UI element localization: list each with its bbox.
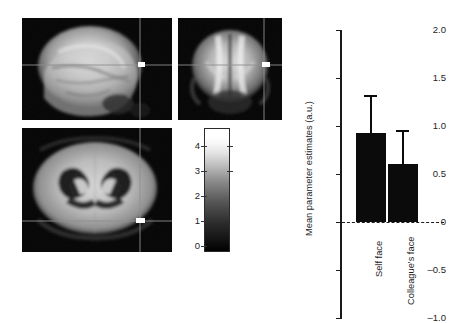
bar-chart: Mean parameter estimates (a.u.) 2.0 1.5 …: [296, 10, 446, 315]
error-bar-cap-self-face: [364, 95, 377, 97]
error-bar-cap-colleagues-face: [396, 130, 409, 132]
colorbar-tick-2: [201, 196, 207, 197]
sagittal-brain-render: [22, 18, 172, 120]
colorbar-tick-4-right: [227, 146, 233, 147]
category-label-self-face: Self face: [375, 241, 384, 277]
y-tick-1.0: [336, 126, 342, 127]
coronal-brain-image: [178, 18, 282, 120]
y-tick-neg0.5: [336, 270, 342, 271]
y-tick-neg1.0: [336, 318, 342, 319]
colorbar-label-3: 3: [195, 166, 200, 176]
colorbar-tick-4: [201, 146, 207, 147]
error-bar-stem-colleagues-face: [402, 130, 404, 164]
y-axis-title: Mean parameter estimates (a.u.): [304, 101, 314, 236]
axial-brain-image: [22, 128, 172, 252]
coronal-brain-render: [178, 18, 282, 120]
axial-brain-render: [22, 128, 172, 252]
y-label-1.5: 1.5: [412, 73, 446, 83]
colorbar-tick-0: [201, 246, 207, 247]
colorbar-label-0: 0: [195, 241, 200, 251]
colorbar-tick-3-right: [227, 171, 233, 172]
y-label-neg1.0: –1.0: [412, 313, 446, 323]
zero-baseline: [342, 222, 444, 223]
bar-self-face: [356, 133, 386, 222]
y-label-1.0: 1.0: [412, 121, 446, 131]
colorbar-tick-3: [201, 171, 207, 172]
y-tick-0.5: [336, 174, 342, 175]
bar-colleagues-face: [388, 164, 418, 222]
y-label-neg0.5: –0.5: [412, 265, 446, 275]
y-tick-2.0: [336, 30, 342, 31]
colorbar-label-1: 1: [195, 216, 200, 226]
colorbar-label-2: 2: [195, 191, 200, 201]
colorbar-tick-1: [201, 221, 207, 222]
category-label-colleagues-face: Colleague's face: [407, 237, 416, 305]
error-bar-stem-self-face: [370, 95, 372, 133]
sagittal-brain-image: [22, 18, 172, 120]
statistical-colorbar: 4 3 2 1 0: [204, 128, 230, 252]
y-label-2.0: 2.0: [412, 25, 446, 35]
y-tick-1.5: [336, 78, 342, 79]
colorbar-label-4: 4: [195, 141, 200, 151]
